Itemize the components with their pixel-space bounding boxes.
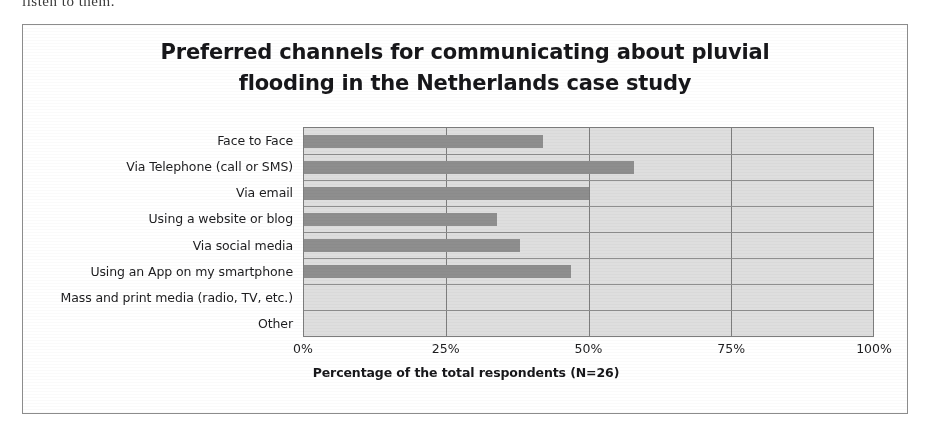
- x-axis-tick-label: 0%: [293, 341, 313, 356]
- bar: [304, 135, 543, 148]
- bars-layer: [304, 128, 873, 336]
- x-axis-ticks: 0%25%50%75%100%: [303, 341, 874, 359]
- bar: [304, 213, 497, 226]
- category-label: Using a website or blog: [41, 206, 299, 232]
- plot-wrapper: Face to Face Via Telephone (call or SMS)…: [23, 25, 909, 415]
- plot-area: [303, 127, 874, 337]
- x-axis-tick-label: 100%: [856, 341, 892, 356]
- category-axis: Face to Face Via Telephone (call or SMS)…: [41, 127, 299, 337]
- category-label: Via social media: [41, 232, 299, 258]
- x-axis-title: Percentage of the total respondents (N=2…: [23, 365, 909, 380]
- bar-row: [304, 310, 873, 336]
- page-tail-text: listen to them.: [22, 0, 115, 6]
- figure-frame: Preferred channels for communicating abo…: [22, 24, 908, 414]
- bar-row: [304, 206, 873, 232]
- bar-row: [304, 232, 873, 258]
- bar: [304, 239, 520, 252]
- bar-row: [304, 154, 873, 180]
- category-label: Face to Face: [41, 127, 299, 153]
- bar: [304, 161, 634, 174]
- bar-row: [304, 128, 873, 154]
- bar: [304, 187, 589, 200]
- x-axis-tick-label: 75%: [717, 341, 745, 356]
- category-label: Mass and print media (radio, TV, etc.): [41, 285, 299, 311]
- category-label: Using an App on my smartphone: [41, 258, 299, 284]
- x-axis-tick-label: 25%: [432, 341, 460, 356]
- bar-row: [304, 258, 873, 284]
- x-axis-tick-label: 50%: [575, 341, 603, 356]
- category-label: Via Telephone (call or SMS): [41, 153, 299, 179]
- vertical-gridline: [873, 128, 874, 336]
- bar-row: [304, 284, 873, 310]
- bar: [304, 265, 571, 278]
- bar-row: [304, 180, 873, 206]
- category-label: Via email: [41, 180, 299, 206]
- category-label: Other: [41, 311, 299, 337]
